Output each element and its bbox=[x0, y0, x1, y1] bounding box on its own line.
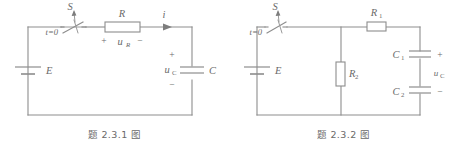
capacitor-voltage-subscript: C bbox=[172, 69, 177, 76]
source-label: E bbox=[274, 65, 282, 76]
figure-sheet: E S t=0 R + u R − bbox=[0, 0, 458, 156]
resistor-minus-sign: − bbox=[137, 36, 142, 46]
switch-time-label: t=0 bbox=[46, 27, 59, 37]
figure-2-3-1: E S t=0 R + u R − bbox=[0, 0, 229, 156]
resistor1-label: R bbox=[370, 7, 378, 18]
resistor2-subscript: 2 bbox=[355, 73, 359, 80]
capacitor1-subscript: 1 bbox=[401, 54, 404, 61]
resistor-voltage-subscript: R bbox=[125, 41, 131, 48]
capacitor-voltage-label: u bbox=[164, 64, 169, 75]
resistor-symbol bbox=[105, 22, 140, 32]
switch-time-label: t=0 bbox=[250, 27, 263, 37]
resistor-plus-sign: + bbox=[101, 36, 106, 46]
resistor2-symbol bbox=[336, 62, 345, 86]
figure-caption-2-3-1: 题 2.3.1 图 bbox=[0, 127, 229, 141]
capacitor2-subscript: 2 bbox=[401, 91, 405, 98]
capacitor-voltage-label: u bbox=[434, 68, 439, 78]
switch-label: S bbox=[67, 1, 73, 12]
capacitor2-label: C bbox=[392, 86, 400, 97]
capacitor1-symbol bbox=[409, 51, 431, 57]
resistor2-body bbox=[336, 62, 345, 86]
resistor-body bbox=[105, 22, 140, 32]
resistor-label: R bbox=[118, 8, 126, 19]
current-label: i bbox=[163, 9, 166, 20]
figure-2-3-2: E S t=0 R 1 R 2 bbox=[229, 0, 458, 156]
capacitor2-symbol bbox=[409, 87, 431, 93]
current-arrow bbox=[163, 24, 172, 31]
capacitor1-label: C bbox=[392, 49, 400, 60]
capacitor-label: C bbox=[209, 65, 217, 76]
capacitor-plus-sign: + bbox=[437, 50, 442, 60]
circuit-diagram-2-3-1: E S t=0 R + u R − bbox=[0, 0, 229, 130]
capacitor-voltage-subscript: C bbox=[440, 72, 445, 79]
switch-symbol[interactable] bbox=[61, 10, 86, 33]
circuit-diagram-2-3-2: E S t=0 R 1 R 2 bbox=[229, 0, 458, 130]
resistor-voltage-label: u bbox=[117, 36, 122, 47]
capacitor-minus-sign: − bbox=[437, 87, 442, 97]
figure-caption-2-3-2: 题 2.3.2 图 bbox=[229, 127, 458, 141]
resistor1-symbol bbox=[367, 22, 386, 31]
capacitor-minus-sign: − bbox=[169, 80, 174, 90]
capacitor-symbol bbox=[180, 67, 204, 73]
source-label: E bbox=[45, 65, 53, 76]
capacitor-plus-sign: + bbox=[169, 50, 174, 60]
resistor1-subscript: 1 bbox=[379, 12, 382, 19]
current-arrow-head bbox=[163, 24, 172, 31]
switch-symbol[interactable] bbox=[265, 10, 287, 33]
switch-label: S bbox=[272, 1, 278, 12]
resistor1-body bbox=[367, 22, 386, 31]
